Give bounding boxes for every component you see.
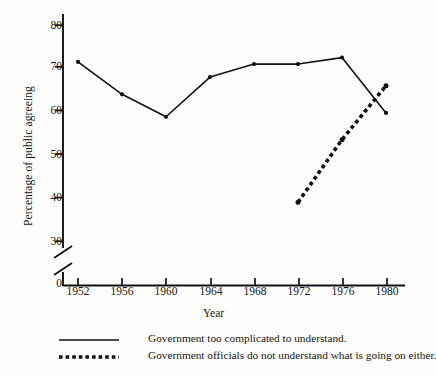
series-line-dotted [298,86,386,203]
data-point [384,111,388,115]
data-point [208,75,212,79]
legend-item-solid: Government too complicated to understand… [0,332,427,349]
legend-label-dotted: Government officials do not understand w… [148,349,436,361]
data-point [340,56,344,60]
data-point [120,92,124,96]
data-point [296,200,301,205]
data-point [76,60,80,64]
data-point [252,62,256,66]
legend-item-dotted: Government officials do not understand w… [0,349,427,366]
series-line-solid [78,58,386,117]
data-point [384,83,389,88]
series-dotted-group [296,83,389,205]
data-point [296,62,300,66]
legend-label-solid: Government too complicated to understand… [148,332,347,344]
legend: Government too complicated to understand… [0,332,427,366]
data-point [164,115,168,119]
legend-swatch-solid-line [58,332,120,348]
series-solid-group [76,56,388,119]
legend-swatch-dotted-line [58,349,120,365]
data-point [340,137,345,142]
